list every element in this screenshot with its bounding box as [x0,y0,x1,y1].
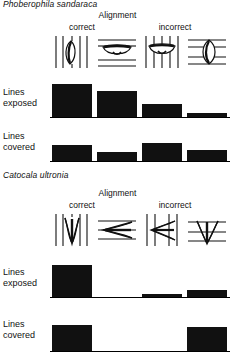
bar-row-covered-phoberophila: Lines covered [0,122,235,162]
row-label-line1: Lines [3,131,25,141]
column-group-incorrect: incorrect [135,22,215,32]
moth-on-vertical-bark-misaligned-icon [142,213,182,247]
row-label-line1: Lines [3,319,25,329]
column-group-correct: correct [42,200,122,210]
moth-on-vertical-bark-misaligned-icon [142,35,182,69]
panel-phoberophila: Phoberophila sandaraca Alignment correct… [0,0,235,168]
plot-exposed-phoberophila [50,78,230,118]
axis-baseline [50,297,230,298]
bar [52,84,92,117]
row-label-exposed: Lines exposed [3,267,51,289]
moth-on-horizontal-bark-misaligned-icon [187,213,227,247]
row-label-line2: covered [3,142,35,152]
moth-on-vertical-bark-aligned-icon [52,35,92,69]
panel-catocala: Catocala ultronia Alignment correct inco… [0,170,235,355]
moth-on-horizontal-bark-misaligned-icon [187,35,227,69]
bar [97,91,137,117]
axis-baseline [50,117,230,118]
plot-exposed-catocala [50,258,230,298]
bar [52,265,92,297]
plot-covered-catocala [50,308,230,352]
alignment-header: Alignment [0,10,235,20]
row-label-covered: Lines covered [3,131,51,153]
row-label-line1: Lines [3,267,25,277]
axis-baseline [50,351,230,352]
panel-title-species: Phoberophila sandaraca [3,0,97,9]
moth-on-horizontal-bark-aligned-icon [97,35,137,69]
moth-on-horizontal-bark-aligned-icon [97,213,137,247]
bar [187,150,227,161]
axis-baseline [50,161,230,162]
row-label-line2: exposed [3,98,37,108]
row-label-line1: Lines [3,87,25,97]
icon-row-phoberophila [0,35,235,69]
row-label-exposed: Lines exposed [3,87,51,109]
alignment-header: Alignment [0,188,235,198]
row-label-line2: exposed [3,278,37,288]
bar [52,145,92,161]
bar-row-covered-catocala: Lines covered [0,308,235,352]
plot-covered-phoberophila [50,122,230,162]
figure-root: Phoberophila sandaraca Alignment correct… [0,0,235,355]
row-label-line2: covered [3,330,35,340]
bar [187,290,227,297]
row-label-covered: Lines covered [3,319,51,341]
bar [142,104,182,117]
bar [97,152,137,161]
bar [142,143,182,161]
icon-row-catocala [0,213,235,247]
bar-row-exposed-catocala: Lines exposed [0,258,235,298]
bar-row-exposed-phoberophila: Lines exposed [0,78,235,118]
column-group-incorrect: incorrect [135,200,215,210]
column-group-correct: correct [42,22,122,32]
panel-title-species: Catocala ultronia [3,170,69,180]
bar [187,327,227,351]
bar [52,325,92,351]
moth-on-vertical-bark-aligned-icon [52,213,92,247]
